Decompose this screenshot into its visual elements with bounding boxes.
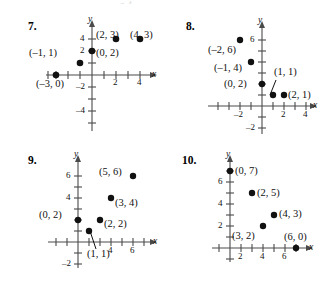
- graph-10: x y 2 4 6 6 4 2 (0, 7) (2, 5) (4, 3) (3,…: [204, 152, 324, 270]
- y-axis-label: y: [258, 15, 262, 25]
- y-tick-label: 2: [218, 221, 223, 230]
- y-axis-label: y: [226, 149, 230, 159]
- point-label: (0, 2): [224, 78, 247, 89]
- point-label: (2, 1): [288, 89, 311, 100]
- y-tick-label: 4: [80, 34, 85, 43]
- data-point: [97, 217, 103, 223]
- y-axis-label: y: [88, 14, 92, 24]
- data-point: [293, 245, 299, 251]
- graph-8: x y –2 2 4 6 –2 (–2, 6) (–1, 4) (0, 2) (…: [200, 18, 324, 136]
- cropped-header-text: g 4: [120, 0, 210, 4]
- point-label: (5, 6): [99, 166, 122, 177]
- y-tick-label: –4: [76, 106, 85, 115]
- y-tick-label: 6: [250, 35, 255, 44]
- data-point: [77, 60, 84, 67]
- x-tick-label: 4: [137, 78, 142, 87]
- point-label: (1, 1): [274, 66, 297, 77]
- point-label: (1, 1): [87, 248, 110, 259]
- graph-7: x y 2 4 4 2 –2 –4 (2, 3) (4, 3) (0, 2) (…: [42, 18, 158, 133]
- point-label: (4, 3): [279, 208, 302, 219]
- problem-number-9: 9.: [28, 154, 37, 166]
- point-label: (0, 2): [39, 209, 62, 220]
- point-label: (–1, 4): [214, 62, 242, 73]
- y-tick-label: 4: [66, 193, 71, 202]
- x-tick-label: 2: [238, 252, 243, 261]
- x-axis-label: x: [313, 100, 317, 110]
- point-label: (2, 3): [96, 29, 119, 40]
- x-tick-label: 6: [130, 246, 135, 255]
- data-point: [271, 212, 277, 218]
- point-label: (3, 4): [115, 197, 138, 208]
- data-point: [227, 168, 233, 174]
- point-label: (2, 5): [257, 187, 280, 198]
- x-axis-label: x: [152, 69, 156, 79]
- data-point: [86, 228, 92, 234]
- data-point: [260, 223, 266, 229]
- y-tick-label: 4: [218, 199, 223, 208]
- x-tick-label: 2: [281, 110, 286, 119]
- problem-10: 10.: [182, 152, 324, 272]
- y-tick-label: –2: [246, 123, 255, 132]
- point-label: (–3, 0): [36, 78, 64, 89]
- problem-8: 8.: [186, 18, 324, 133]
- point-label: (0, 7): [235, 165, 258, 176]
- problem-number-10: 10.: [182, 154, 196, 166]
- y-tick-label: 6: [218, 177, 223, 186]
- point-label: (2, 2): [104, 218, 127, 229]
- x-tick-label: 6: [282, 252, 287, 261]
- data-point: [130, 173, 136, 179]
- x-tick-label: 4: [260, 252, 265, 261]
- point-label: (–2, 6): [208, 44, 236, 55]
- point-label: (3, 2): [232, 230, 255, 241]
- y-tick-label: 2: [80, 46, 85, 55]
- data-point: [270, 92, 276, 98]
- data-point: [259, 81, 265, 87]
- point-label: (–1, 1): [29, 47, 57, 58]
- problem-7: 7.: [28, 18, 158, 133]
- data-point: [75, 217, 81, 223]
- problem-number-7: 7.: [28, 20, 37, 32]
- data-point: [89, 48, 96, 55]
- problem-9: 9.: [28, 152, 163, 272]
- y-tick-label: 6: [66, 171, 71, 180]
- y-axis-label: y: [74, 149, 78, 159]
- y-tick-label: –2: [62, 259, 71, 268]
- problem-number-8: 8.: [186, 20, 195, 32]
- x-tick-label: 4: [303, 110, 308, 119]
- data-point: [108, 195, 114, 201]
- point-label: (0, 2): [96, 47, 119, 58]
- y-tick-label: –2: [76, 82, 85, 91]
- data-point: [249, 190, 255, 196]
- data-point: [281, 92, 287, 98]
- x-tick-label: –2: [234, 110, 243, 119]
- point-label: (4, 3): [130, 29, 153, 40]
- x-tick-label: 2: [113, 78, 118, 87]
- data-point: [237, 37, 243, 43]
- x-axis-label: x: [309, 242, 313, 252]
- data-point: [248, 59, 254, 65]
- worksheet-page: g 4 7.: [0, 0, 329, 281]
- graph-9: x y 4 6 6 4 –2 (5, 6) (3, 4) (0, 2) (2, …: [42, 152, 164, 270]
- point-label: (6, 0): [284, 231, 307, 242]
- x-axis-label: x: [153, 236, 157, 246]
